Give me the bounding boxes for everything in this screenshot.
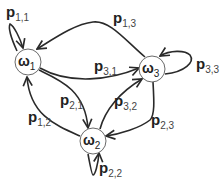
edge-label-p22: p2,2 [99, 160, 122, 176]
edge-label-p21: p2,1 [60, 92, 83, 108]
node-label-w2: ω2 [83, 132, 100, 148]
edge-label-p13: p1,3 [113, 10, 136, 26]
markov-diagram: ω1 ω2 ω3 p1,1 p1,3 p3,1 p2,1 p1,2 p3,2 p… [0, 0, 223, 189]
node-label-w3: ω3 [142, 60, 159, 76]
edge-label-p23: p2,3 [151, 112, 174, 128]
edge-label-p12: p1,2 [28, 109, 51, 125]
edge-label-p31: p3,1 [94, 58, 117, 74]
edge-label-p32: p3,2 [114, 93, 137, 109]
edge-p11 [9, 24, 23, 51]
node-label-w1: ω1 [18, 53, 35, 69]
edge-p22 [88, 153, 99, 175]
edge-label-p33: p3,3 [196, 56, 219, 72]
edge-label-p11: p1,1 [6, 4, 29, 20]
